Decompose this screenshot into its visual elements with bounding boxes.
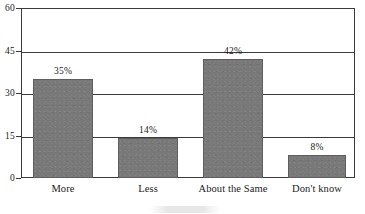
y-axis: 60 45 30 15 0 — [0, 0, 21, 214]
category-label-less: Less — [138, 183, 158, 194]
y-tick-label-30: 30 — [5, 88, 15, 98]
y-tick-label-15: 15 — [5, 131, 15, 141]
bar-less[interactable] — [118, 138, 178, 178]
category-label-about-the-same: About the Same — [198, 183, 267, 194]
value-label-dont-know: 8% — [310, 142, 323, 152]
bar-more[interactable] — [33, 79, 93, 178]
y-tick-label-0: 0 — [10, 173, 15, 183]
value-label-less: 14% — [139, 125, 157, 135]
bar-chart: 60 45 30 15 0 35% 14% 42% 8% More Less A… — [0, 0, 365, 214]
category-label-more: More — [51, 183, 74, 194]
bars-layer — [21, 8, 355, 178]
bar-about-the-same[interactable] — [203, 59, 263, 178]
value-label-about-the-same: 42% — [224, 46, 242, 56]
y-tick-label-45: 45 — [5, 46, 15, 56]
value-label-more: 35% — [54, 66, 72, 76]
y-tick-mark-0 — [16, 178, 21, 179]
bar-dont-know[interactable] — [288, 155, 346, 178]
y-tick-label-60: 60 — [5, 3, 15, 13]
category-label-dont-know: Don't know — [292, 183, 342, 194]
footer-artifact — [150, 206, 220, 213]
